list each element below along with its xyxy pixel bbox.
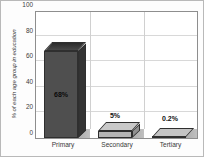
value-label-tertiary: 0.2%	[150, 115, 190, 122]
y-axis-tick-labels: 0 20 40 60 80 100	[15, 11, 33, 139]
x-axis-tick-labels: Primary Secondary Tertiary	[35, 141, 198, 153]
bar-tertiary-front-face	[152, 136, 186, 138]
plot-area: 68% 5% 0.2%	[35, 11, 198, 139]
x-tick-label: Secondary	[89, 141, 145, 148]
y-tick-label: 60	[15, 53, 33, 59]
bar-secondary[interactable]	[98, 122, 142, 138]
gridline-vertical	[90, 12, 91, 138]
y-tick-label: 20	[15, 104, 33, 110]
bar-primary[interactable]	[44, 42, 88, 138]
y-tick-label: 0	[15, 130, 33, 136]
y-tick-label: 40	[15, 79, 33, 85]
chart-container: % of each age group in education 0 20 40…	[0, 0, 204, 157]
y-tick-label: 80	[15, 28, 33, 34]
x-tick-label: Primary	[35, 141, 91, 148]
value-label-primary: 68%	[44, 91, 78, 98]
value-label-secondary: 5%	[98, 112, 132, 119]
gridline-vertical	[144, 12, 145, 138]
bar-tertiary[interactable]	[152, 128, 196, 138]
y-tick-label: 100	[15, 2, 33, 8]
x-tick-label: Tertiary	[143, 141, 198, 148]
bar-primary-side-face	[78, 44, 86, 138]
bar-secondary-front-face	[98, 131, 132, 138]
gridline-horizontal	[36, 35, 197, 36]
